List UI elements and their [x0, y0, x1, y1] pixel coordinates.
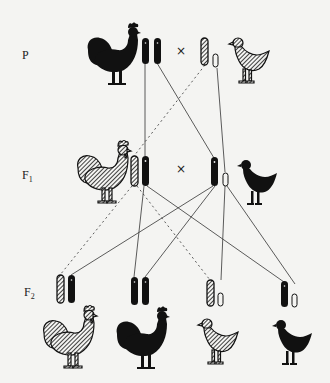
- generation-f2: [44, 275, 312, 369]
- chromosome-pair-f2-2: [131, 277, 149, 305]
- label-text: F: [24, 285, 31, 299]
- chromosome-pair-f1-female: [211, 157, 228, 186]
- chromosome-striped-icon: [131, 156, 138, 186]
- generation-label-p: P: [22, 48, 29, 64]
- hen-black-icon: [237, 160, 277, 205]
- chromosome-pair-f2-4: [281, 281, 297, 307]
- label-text: P: [22, 48, 29, 62]
- chromosome-striped-icon: [201, 38, 208, 65]
- label-subscript: 1: [29, 175, 33, 184]
- chromosome-open-icon: [292, 294, 297, 307]
- rooster-barred-icon: [44, 306, 97, 369]
- chromosome-pair-p-male: [142, 38, 161, 64]
- lines-f1-to-f2: [60, 186, 295, 284]
- chromosome-open-icon: [223, 173, 228, 186]
- chromosome-striped-icon: [57, 275, 64, 303]
- inheritance-diagram: [0, 0, 330, 383]
- chromosome-open-icon: [218, 293, 223, 306]
- hen-barred-icon: [198, 319, 238, 364]
- chromosome-striped-icon: [207, 280, 214, 306]
- chromosome-black-icon: [142, 38, 149, 64]
- generation-label-f1: F1: [22, 168, 33, 184]
- chromosome-pair-f1-male: [131, 156, 149, 186]
- chromosome-pair-f2-3: [207, 280, 223, 306]
- chromosome-black-icon: [154, 38, 161, 64]
- rooster-black-icon: [117, 307, 170, 370]
- generation-label-f2: F2: [24, 285, 35, 301]
- rooster-black-icon: [88, 23, 141, 86]
- chromosome-black-icon: [281, 281, 288, 307]
- label-subscript: 2: [31, 292, 35, 301]
- rooster-barred-icon: [78, 141, 131, 204]
- lines-p-to-f1: [134, 63, 225, 172]
- hen-black-icon: [272, 320, 312, 365]
- cross-symbol-p: ×: [176, 44, 186, 58]
- chromosome-pair-p-female: [201, 38, 218, 67]
- chromosome-open-icon: [213, 54, 218, 67]
- label-text: F: [22, 168, 29, 182]
- chromosome-pair-f2-1: [57, 275, 75, 303]
- cross-symbol-f1: ×: [176, 162, 186, 176]
- hen-barred-icon: [229, 38, 269, 83]
